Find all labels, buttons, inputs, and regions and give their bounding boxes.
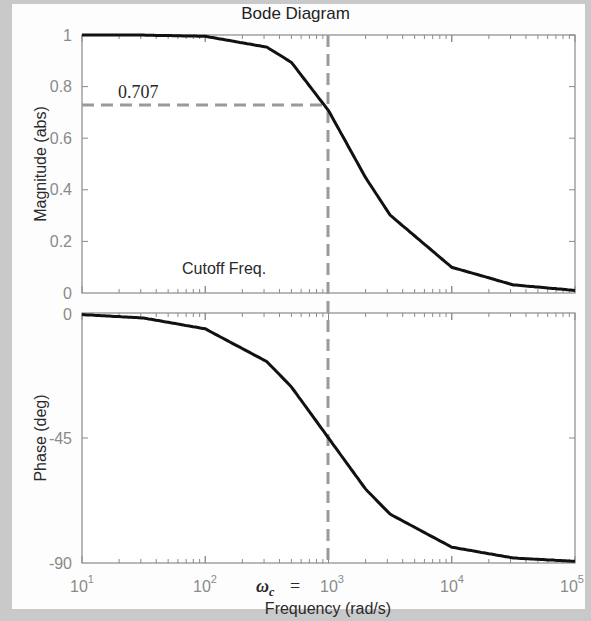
- phase-tick-minus90: -90: [49, 555, 72, 572]
- mag-tick-1: 1: [63, 27, 72, 44]
- svg-text:105: 105: [560, 573, 584, 595]
- label-0707: 0.707: [118, 82, 159, 102]
- equals-sign: =: [290, 576, 300, 596]
- x-axis-label: Frequency (rad/s): [265, 600, 391, 617]
- omega-c-label: ωc: [256, 576, 275, 599]
- mag-tick-0: 0: [63, 285, 72, 302]
- bode-plot: 1 0.8 0.6 0.4 0.2 0 0 -45 -90 Magnitude …: [0, 0, 591, 621]
- phase-tick-0: 0: [63, 306, 72, 323]
- mag-tick-0.4: 0.4: [50, 181, 72, 198]
- magnitude-y-label: Magnitude (abs): [32, 106, 49, 222]
- mag-tick-0.6: 0.6: [50, 130, 72, 147]
- label-cutoff-freq: Cutoff Freq.: [182, 260, 266, 277]
- phase-tick-minus45: -45: [49, 430, 72, 447]
- svg-text:102: 102: [193, 573, 217, 595]
- mag-tick-0.8: 0.8: [50, 78, 72, 95]
- svg-text:101: 101: [70, 573, 94, 595]
- mag-tick-0.2: 0.2: [50, 233, 72, 250]
- x-tick-labels: 101 102 103 104 105: [70, 573, 584, 595]
- svg-text:103: 103: [320, 573, 344, 595]
- phase-y-label: Phase (deg): [32, 394, 49, 481]
- svg-text:104: 104: [440, 573, 464, 595]
